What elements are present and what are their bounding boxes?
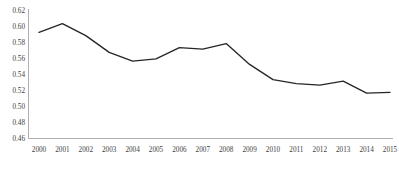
y-axis-tick-labels: 0.62 0.60 0.58 0.56 0.54 0.52 0.50 0.48 … [12,7,25,143]
y-tick-label: 0.48 [12,119,25,127]
x-tick-label: 2006 [172,146,187,154]
x-tick-label: 2009 [242,146,257,154]
y-tick-label: 0.58 [12,39,25,47]
data-series-line [39,24,390,94]
x-tick-label: 2008 [219,146,234,154]
x-tick-label: 2003 [102,146,117,154]
x-tick-label: 2012 [313,146,328,154]
x-tick-label: 2000 [32,146,47,154]
x-axis-tick-labels: 2000 2001 2002 2003 2004 2005 2006 2007 … [32,146,398,154]
x-tick-label: 2007 [196,146,211,154]
y-tick-label: 0.62 [12,7,25,15]
y-tick-label: 0.60 [12,23,25,31]
x-tick-label: 2015 [383,146,398,154]
y-tick-label: 0.56 [12,55,25,63]
x-tick-label: 2014 [359,146,374,154]
x-tick-label: 2004 [125,146,140,154]
y-tick-label: 0.50 [12,103,25,111]
y-tick-label: 0.54 [12,71,25,79]
chart-canvas: 0.62 0.60 0.58 0.56 0.54 0.52 0.50 0.48 … [0,0,399,170]
line-chart: 0.62 0.60 0.58 0.56 0.54 0.52 0.50 0.48 … [0,0,399,170]
x-tick-label: 2013 [336,146,351,154]
x-tick-label: 2002 [79,146,94,154]
x-tick-label: 2011 [289,146,304,154]
x-tick-label: 2010 [266,146,281,154]
x-tick-label: 2005 [149,146,164,154]
y-tick-label: 0.46 [12,135,25,143]
y-tick-label: 0.52 [12,87,25,95]
x-tick-label: 2001 [55,146,70,154]
